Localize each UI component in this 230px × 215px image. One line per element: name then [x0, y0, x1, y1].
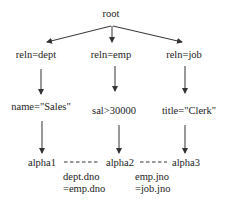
condition-salary-node: sal>30000 [92, 105, 136, 117]
reln-emp-node: reln=emp [91, 49, 131, 61]
alpha1-node: alpha1 [28, 157, 56, 169]
alpha3-node: alpha3 [172, 157, 200, 169]
alpha2-node: alpha2 [106, 157, 134, 169]
reln-job-node: reln=job [166, 49, 202, 61]
condition-clerk-node: title="Clerk" [162, 105, 216, 117]
edge-root-job [113, 26, 182, 42]
root-node: root [103, 8, 120, 20]
join2-label-line1: emp.jno [135, 171, 169, 183]
edge-root-dept [47, 26, 111, 42]
query-tree-diagram: root reln=dept reln=emp reln=job name="S… [0, 0, 230, 215]
reln-dept-node: reln=dept [16, 49, 56, 61]
join1-label-line2: =emp.dno [63, 183, 105, 195]
join2-label-line2: =job.jno [135, 183, 170, 195]
join1-label-line1: dept.dno [63, 171, 99, 183]
condition-sales-node: name="Sales" [11, 101, 70, 113]
